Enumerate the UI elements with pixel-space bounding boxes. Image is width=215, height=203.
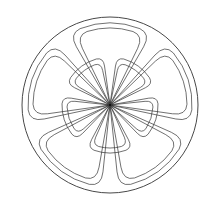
outer-petal <box>73 23 146 103</box>
inner-petal <box>110 64 144 104</box>
inner-petal <box>75 64 109 104</box>
outer-petal <box>111 49 192 120</box>
crest-diagram <box>0 0 215 203</box>
inner-petal <box>90 107 130 153</box>
center-dot <box>109 104 112 107</box>
inner-petal <box>111 101 152 131</box>
inner-petal <box>95 107 126 148</box>
inner-petal <box>67 101 108 131</box>
outer-petal <box>80 28 140 103</box>
outer-petal <box>28 49 109 120</box>
